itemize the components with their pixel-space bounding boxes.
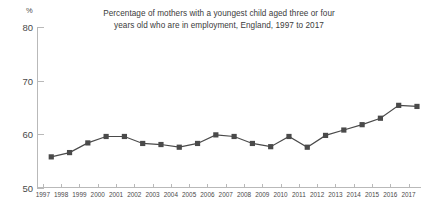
data-point-2016	[396, 103, 401, 108]
data-point-2005	[195, 141, 200, 146]
x-axis-label-2001: 2001	[109, 191, 123, 198]
series-line	[51, 105, 417, 157]
data-series	[37, 27, 421, 188]
x-axis-label-1998: 1998	[54, 191, 68, 198]
data-point-2015	[378, 116, 383, 121]
x-axis-label-1999: 1999	[72, 191, 86, 198]
y-tick-label: 60	[22, 129, 33, 140]
y-tick-label: 70	[22, 75, 33, 86]
y-axis-unit-label: %	[26, 6, 33, 15]
chart-title-line-1: Percentage of mothers with a youngest ch…	[74, 8, 364, 20]
x-axis-label-2002: 2002	[127, 191, 141, 198]
data-point-2007	[232, 134, 237, 139]
x-axis-label-2015: 2015	[365, 191, 379, 198]
x-axis-label-2008: 2008	[237, 191, 251, 198]
chart-container: % Percentage of mothers with a youngest …	[0, 0, 429, 206]
data-point-2010	[286, 134, 291, 139]
x-axis-label-1997: 1997	[36, 191, 50, 198]
data-point-2013	[341, 127, 346, 132]
x-axis-label-2003: 2003	[145, 191, 159, 198]
data-point-2012	[323, 133, 328, 138]
x-axis-label-2004: 2004	[164, 191, 178, 198]
x-axis-label-2005: 2005	[182, 191, 196, 198]
y-tick-50: 50	[37, 188, 44, 189]
x-axis-label-2007: 2007	[219, 191, 233, 198]
data-point-1998	[67, 150, 72, 155]
data-point-2008	[250, 141, 255, 146]
data-point-2011	[305, 145, 310, 150]
x-axis-label-2017: 2017	[401, 191, 415, 198]
x-axis-label-2009: 2009	[255, 191, 269, 198]
x-axis-label-2011: 2011	[292, 191, 306, 198]
x-axis-label-2012: 2012	[310, 191, 324, 198]
data-point-2009	[268, 144, 273, 149]
plot-area: 50607080 1997199819992000200120022003200…	[37, 27, 421, 188]
data-point-2000	[104, 134, 109, 139]
data-point-2003	[158, 142, 163, 147]
x-axis-label-2010: 2010	[273, 191, 287, 198]
data-point-2004	[177, 145, 182, 150]
data-point-1999	[85, 140, 90, 145]
data-point-2006	[213, 132, 218, 137]
data-point-2014	[360, 122, 365, 127]
data-point-1997	[49, 154, 54, 159]
x-axis-label-2000: 2000	[91, 191, 105, 198]
x-axis-label-2013: 2013	[328, 191, 342, 198]
data-point-2017	[414, 104, 419, 109]
x-axis-label-2016: 2016	[383, 191, 397, 198]
x-axis-label-2014: 2014	[347, 191, 361, 198]
y-tick-label: 80	[22, 22, 33, 33]
y-tick-mark	[37, 188, 44, 189]
y-tick-label: 50	[22, 183, 33, 194]
data-point-2001	[122, 134, 127, 139]
x-axis-label-2006: 2006	[200, 191, 214, 198]
data-point-2002	[140, 141, 145, 146]
